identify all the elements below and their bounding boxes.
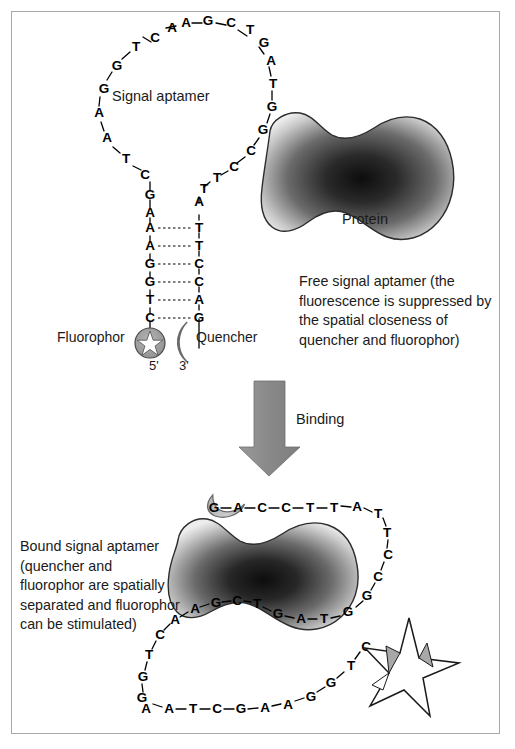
svg-text:T: T [320, 611, 329, 626]
fluorophor-quenched-icon [135, 328, 165, 358]
svg-text:A: A [190, 601, 200, 616]
svg-text:G: G [306, 689, 317, 704]
svg-text:C: C [194, 274, 204, 289]
svg-text:C: C [140, 167, 150, 182]
svg-text:G: G [236, 701, 247, 716]
svg-text:G: G [194, 310, 205, 325]
svg-text:A: A [141, 701, 151, 716]
svg-text:A: A [260, 700, 270, 715]
svg-text:G: G [112, 58, 123, 73]
free-aptamer-backbone [99, 23, 272, 348]
free-aptamer-caption: Free signal aptamer (the fluorescence is… [299, 272, 499, 350]
svg-text:G: G [209, 500, 220, 515]
down-arrow-icon [239, 381, 300, 476]
svg-text:A: A [145, 220, 155, 235]
svg-text:C: C [212, 701, 222, 716]
svg-text:T: T [132, 39, 141, 54]
svg-text:A: A [283, 697, 293, 712]
svg-text:G: G [145, 274, 156, 289]
svg-text:A: A [194, 194, 204, 209]
svg-text:G: G [145, 256, 156, 271]
svg-text:C: C [383, 547, 393, 562]
binding-arrow-label: Binding [296, 411, 344, 427]
svg-text:A: A [266, 53, 276, 68]
svg-text:G: G [211, 595, 222, 610]
signal-aptamer-label: Signal aptamer [112, 88, 210, 104]
svg-text:G: G [362, 588, 373, 603]
svg-text:T: T [146, 292, 155, 307]
five-prime-end-label: 5' [149, 358, 159, 373]
free-aptamer-base-pairs [158, 228, 191, 318]
svg-text:T: T [374, 506, 383, 521]
svg-text:G: G [99, 81, 110, 96]
svg-text:G: G [343, 604, 354, 619]
svg-text:T: T [195, 238, 204, 253]
svg-text:T: T [189, 701, 198, 716]
fluorophor-emitting-star-icon [365, 618, 459, 716]
svg-text:A: A [296, 611, 306, 626]
svg-text:G: G [259, 35, 270, 50]
svg-text:T: T [145, 647, 154, 662]
svg-text:T: T [330, 500, 339, 515]
svg-text:C: C [194, 256, 204, 271]
svg-text:T: T [195, 220, 204, 235]
svg-text:A: A [145, 205, 155, 220]
svg-text:A: A [102, 130, 112, 145]
svg-text:C: C [232, 593, 242, 608]
svg-text:A: A [181, 15, 191, 30]
svg-text:G: G [267, 99, 278, 114]
diagram-graphics: C T G G A A T C G A A A G C T G A T G G … [0, 0, 515, 749]
svg-text:C: C [229, 159, 239, 174]
aptamer-binding-diagram: C T G G A A T C G A A A G C T G A T G G … [0, 0, 515, 749]
svg-text:T: T [246, 22, 255, 37]
svg-text:T: T [383, 525, 392, 540]
svg-text:T: T [269, 76, 278, 91]
quencher-icon [178, 322, 187, 362]
protein-label: Protein [342, 211, 388, 227]
svg-text:G: G [273, 606, 284, 621]
bound-aptamer-caption: Bound signal aptamer (quencher and fluor… [20, 537, 180, 635]
svg-text:A: A [145, 238, 155, 253]
fluorophor-label: Fluorophor [57, 329, 125, 345]
svg-text:T: T [347, 658, 356, 673]
svg-text:T: T [122, 151, 131, 166]
svg-text:G: G [145, 187, 156, 202]
svg-text:G: G [258, 122, 269, 137]
svg-text:C: C [226, 15, 236, 30]
svg-text:G: G [203, 13, 214, 28]
svg-text:C: C [257, 500, 267, 515]
svg-text:C: C [145, 310, 155, 325]
svg-text:C: C [373, 569, 383, 584]
svg-text:C: C [281, 500, 291, 515]
three-prime-end-label: 3' [179, 358, 189, 373]
svg-text:A: A [194, 292, 204, 307]
svg-text:T: T [213, 170, 222, 185]
svg-text:G: G [326, 675, 337, 690]
svg-text:T: T [306, 500, 315, 515]
svg-text:A: A [233, 500, 243, 515]
free-aptamer-bases: C T G G A A T C G A A A G C T G A T G G … [94, 13, 278, 325]
svg-text:C: C [150, 30, 160, 45]
svg-text:A: A [167, 20, 177, 35]
svg-text:A: A [94, 105, 104, 120]
svg-text:A: A [164, 701, 174, 716]
svg-text:A: A [352, 499, 362, 514]
svg-text:T: T [253, 596, 262, 611]
svg-text:G: G [138, 669, 149, 684]
quencher-label: Quencher [196, 329, 257, 345]
svg-text:C: C [246, 143, 256, 158]
